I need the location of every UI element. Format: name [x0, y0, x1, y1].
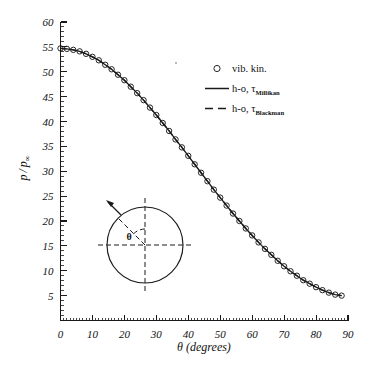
- y-tick-label: 25: [43, 190, 55, 202]
- chart-svg: 51015202530354045505560 0102030405060708…: [0, 0, 370, 372]
- x-axis-title: θ (degrees): [177, 340, 231, 354]
- y-tick-label: 55: [43, 41, 55, 53]
- x-tick-label: 30: [150, 328, 163, 340]
- x-tick-label: 80: [311, 328, 323, 340]
- x-tick-label: 40: [183, 328, 195, 340]
- y-tick-label: 60: [43, 16, 55, 28]
- scan-speck: [175, 62, 177, 64]
- chart-background: [0, 0, 370, 372]
- y-tick-label: 50: [43, 66, 55, 78]
- x-tick-label: 50: [215, 328, 227, 340]
- y-tick-label: 30: [42, 165, 55, 177]
- y-tick-label: 40: [43, 116, 55, 128]
- y-tick-label: 35: [42, 140, 55, 152]
- x-tick-label: 70: [279, 328, 291, 340]
- x-tick-label: 10: [87, 328, 99, 340]
- y-tick-label: 15: [43, 240, 55, 252]
- x-tick-label: 90: [343, 328, 355, 340]
- y-tick-label: 45: [43, 91, 55, 103]
- x-tick-label: 20: [119, 328, 131, 340]
- y-tick-label: 20: [43, 215, 55, 227]
- y-axis-title-denominator: p: [16, 161, 30, 168]
- x-tick-label: 0: [58, 328, 64, 340]
- x-tick-label: 60: [247, 328, 259, 340]
- y-axis-title-numerator: p: [16, 175, 30, 182]
- y-axis-title-subscript: ∞: [23, 155, 32, 161]
- figure-container: 51015202530354045505560 0102030405060708…: [0, 0, 370, 372]
- y-tick-label: 5: [48, 290, 54, 302]
- legend-entry-label: vib. kin.: [232, 63, 267, 74]
- inset-angle-label: θ: [126, 231, 131, 242]
- y-tick-label: 10: [43, 265, 55, 277]
